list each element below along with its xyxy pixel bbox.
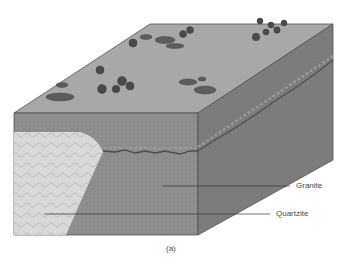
figure-caption: (a) [166,244,176,253]
granite-label: Granite [296,181,322,190]
block-diagram [0,0,347,265]
quartzite-label: Quartzite [276,209,308,218]
